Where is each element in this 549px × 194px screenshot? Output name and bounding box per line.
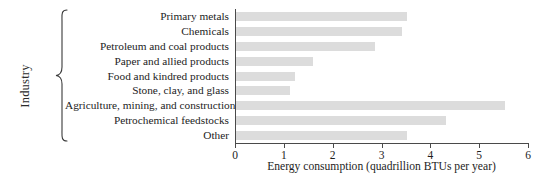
category-label: Food and kindred products xyxy=(65,70,229,82)
x-axis-title: Energy consumption (quadrillion BTUs per… xyxy=(235,160,528,173)
bar xyxy=(236,12,407,21)
x-axis-tick xyxy=(235,143,236,148)
x-axis-tick xyxy=(333,143,334,148)
category-label: Paper and allied products xyxy=(65,55,229,67)
bar xyxy=(236,42,375,51)
chart-figure: Industry Primary metalsChemicalsPetroleu… xyxy=(0,0,549,194)
bar xyxy=(236,116,446,125)
x-axis-tick xyxy=(430,143,431,148)
plot-area: 0123456 xyxy=(235,9,528,143)
category-label: Chemicals xyxy=(65,25,229,37)
x-axis-tick xyxy=(479,143,480,148)
x-axis-tick xyxy=(528,143,529,148)
bar xyxy=(236,101,505,110)
bar xyxy=(236,72,295,81)
category-label: Stone, clay, and glass xyxy=(65,84,229,96)
category-label: Petrochemical feedstocks xyxy=(65,114,229,126)
category-label: Other xyxy=(65,129,229,141)
bar xyxy=(236,57,313,66)
bar xyxy=(236,27,402,36)
category-label: Primary metals xyxy=(65,10,229,22)
category-label: Agriculture, mining, and construction xyxy=(65,99,229,111)
bar xyxy=(236,131,407,140)
x-axis-tick xyxy=(382,143,383,148)
bar xyxy=(236,86,290,95)
category-label-list: Primary metalsChemicalsPetroleum and coa… xyxy=(68,9,232,142)
category-label: Petroleum and coal products xyxy=(65,40,229,52)
x-axis-tick xyxy=(284,143,285,148)
y-axis-title: Industry xyxy=(18,46,33,126)
